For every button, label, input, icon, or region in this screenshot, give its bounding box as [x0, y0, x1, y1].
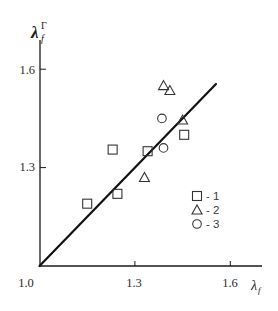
y-axis-label-sub: f	[41, 33, 45, 44]
legend-label-3: - 3	[206, 218, 219, 230]
x-axis-label-sub: f	[258, 285, 262, 295]
y-axis-label-sup: Γ	[41, 20, 47, 31]
square-marker-series-1	[180, 130, 189, 139]
reference-line-y-equals-x	[40, 84, 216, 266]
x-tick-label-1.0: 1.0	[18, 276, 34, 290]
square-marker-series-1	[108, 145, 117, 154]
legend-label-2: - 2	[206, 204, 219, 216]
circle-marker-series-3	[158, 114, 167, 123]
x-tick-label-1.3: 1.3	[126, 276, 142, 290]
x-axis-label-main: λ	[250, 278, 257, 293]
x-axis-label: λ f	[250, 278, 262, 295]
y-axis-label-main: λ	[30, 23, 39, 42]
circle-marker-series-3	[159, 144, 168, 153]
square-marker-series-1	[83, 199, 92, 208]
y-axis-label: λ f Γ	[30, 20, 47, 44]
triangle-marker-series-2	[159, 81, 169, 90]
data-markers	[83, 81, 189, 209]
x-tick-label-1.6: 1.6	[222, 276, 238, 290]
legend: - 1- 2- 3	[192, 190, 219, 230]
y-tick-label-1.3: 1.3	[19, 160, 35, 174]
legend-label-1: - 1	[206, 190, 219, 202]
legend-square-icon	[193, 192, 202, 201]
triangle-marker-series-2	[139, 172, 149, 181]
legend-circle-icon	[193, 220, 202, 229]
y-tick-label-1.6: 1.6	[19, 63, 35, 77]
chart: 1.0 1.3 1.6 1.3 1.6 λ f Γ λ f - 1- 2- 3	[0, 0, 278, 311]
square-marker-series-1	[113, 189, 122, 198]
legend-triangle-icon	[192, 205, 202, 214]
